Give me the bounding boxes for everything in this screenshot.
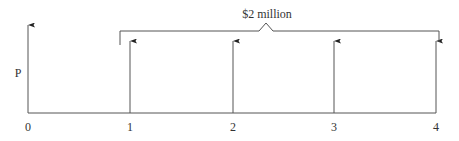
period-label-0: 0	[25, 120, 31, 134]
timeline-svg: $2 million P 01234	[0, 0, 459, 141]
present-value-label: P	[15, 66, 22, 80]
period-label-2: 2	[230, 120, 236, 134]
period-label-4: 4	[433, 120, 439, 134]
cash-flow-diagram: $2 million P 01234	[0, 0, 459, 141]
bracket-label: $2 million	[242, 7, 292, 21]
period-label-1: 1	[127, 120, 133, 134]
annuity-bracket	[120, 23, 439, 45]
period-label-3: 3	[331, 120, 337, 134]
